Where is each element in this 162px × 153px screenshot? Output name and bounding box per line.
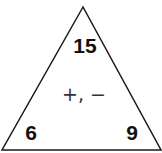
bottom-right-number: 9 <box>126 121 138 144</box>
bottom-left-number: 6 <box>25 121 37 144</box>
fact-triangle-diagram: 15 +, − 6 9 <box>0 0 162 153</box>
operations-label: +, − <box>62 83 106 105</box>
top-number: 15 <box>73 34 97 57</box>
